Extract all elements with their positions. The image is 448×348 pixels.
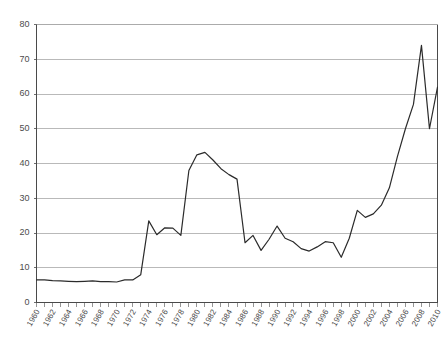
y-axis-label: 30: [19, 193, 29, 203]
x-axis-label: 2008: [410, 308, 427, 328]
x-axis-label: 1980: [185, 308, 202, 328]
y-axis-label: 20: [19, 227, 29, 237]
x-axis-label: 1982: [201, 308, 218, 328]
x-axis-label: 1976: [153, 308, 170, 328]
x-axis-tick-labels: 1960196219641966196819701972197419761978…: [25, 308, 443, 328]
x-axis-label: 1996: [314, 308, 331, 328]
x-axis-label: 1984: [218, 308, 235, 328]
y-axis-label: 50: [19, 123, 29, 133]
x-axis-label: 2006: [394, 308, 411, 328]
x-axis-label: 2004: [378, 308, 395, 328]
x-axis-label: 1994: [298, 308, 315, 328]
x-axis-label: 2010: [426, 308, 443, 328]
gridlines: [37, 25, 438, 268]
x-axis-label: 1986: [234, 308, 251, 328]
y-axis-label: 80: [19, 19, 29, 29]
x-axis-label: 1960: [25, 308, 42, 328]
y-axis-label: 10: [19, 262, 29, 272]
y-axis-tick-labels: 01020304050607080: [19, 19, 29, 307]
x-axis-label: 1978: [169, 308, 186, 328]
y-axis-label: 40: [19, 158, 29, 168]
x-axis-label: 1972: [121, 308, 138, 328]
x-axis-label: 1992: [282, 308, 299, 328]
y-axis-label: 0: [24, 297, 29, 307]
y-axis-label: 60: [19, 88, 29, 98]
x-axis-label: 1968: [89, 308, 106, 328]
x-axis-label: 2002: [362, 308, 379, 328]
x-axis-label: 1970: [105, 308, 122, 328]
chart-container: 01020304050607080 1960196219641966196819…: [0, 0, 448, 348]
x-axis-label: 1988: [250, 308, 267, 328]
x-axis-label: 1964: [57, 308, 74, 328]
x-axis-label: 1966: [73, 308, 90, 328]
x-axis-label: 1990: [266, 308, 283, 328]
y-axis-label: 70: [19, 54, 29, 64]
x-axis-label: 1962: [41, 308, 58, 328]
x-axis-label: 1974: [137, 308, 154, 328]
x-axis-label: 2000: [346, 308, 363, 328]
x-axis-label: 1998: [330, 308, 347, 328]
x-axis-tick-marks: [37, 303, 438, 307]
line-chart-plot: 01020304050607080 1960196219641966196819…: [0, 0, 448, 348]
